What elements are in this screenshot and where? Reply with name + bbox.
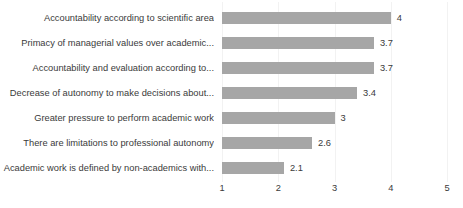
bar-row: Accountability and evaluation according … [0,58,463,83]
bar [222,12,391,24]
bar-value-label: 3.7 [380,58,393,78]
bar [222,37,374,49]
bar-category-label: Accountability and evaluation according … [0,58,214,78]
x-axis: 12345 [0,180,463,202]
bar [222,162,284,174]
bar-row: There are limitations to professional au… [0,133,463,158]
bar-category-label: Academic work is defined by non-academic… [0,158,214,178]
bar-chart: Accountability according to scientific a… [0,0,463,208]
bar-category-label: Accountability according to scientific a… [0,8,214,28]
bar-value-label: 3 [341,108,346,128]
bar-category-label: Decrease of autonomy to make decisions a… [0,83,214,103]
x-axis-tick-label: 1 [219,180,224,196]
x-axis-tick-label: 4 [388,180,393,196]
x-axis-tick-label: 5 [444,180,449,196]
bar-row: Accountability according to scientific a… [0,8,463,33]
bar-value-label: 4 [397,8,402,28]
bar-category-label: There are limitations to professional au… [0,133,214,153]
x-axis-tick-label: 2 [276,180,281,196]
bar-value-label: 2.1 [290,158,303,178]
bar [222,62,374,74]
bar-row: Greater pressure to perform academic wor… [0,108,463,133]
bar [222,87,357,99]
bar-value-label: 3.7 [380,33,393,53]
bar-category-label: Greater pressure to perform academic wor… [0,108,214,128]
bar [222,137,312,149]
bar [222,112,335,124]
bar-row: Primacy of managerial values over academ… [0,33,463,58]
bar-category-label: Primacy of managerial values over academ… [0,33,214,53]
bar-value-label: 2.6 [318,133,331,153]
chart-plot-area: Accountability according to scientific a… [0,8,463,183]
bar-value-label: 3.4 [363,83,376,103]
x-axis-tick-label: 3 [332,180,337,196]
bar-row: Decrease of autonomy to make decisions a… [0,83,463,108]
